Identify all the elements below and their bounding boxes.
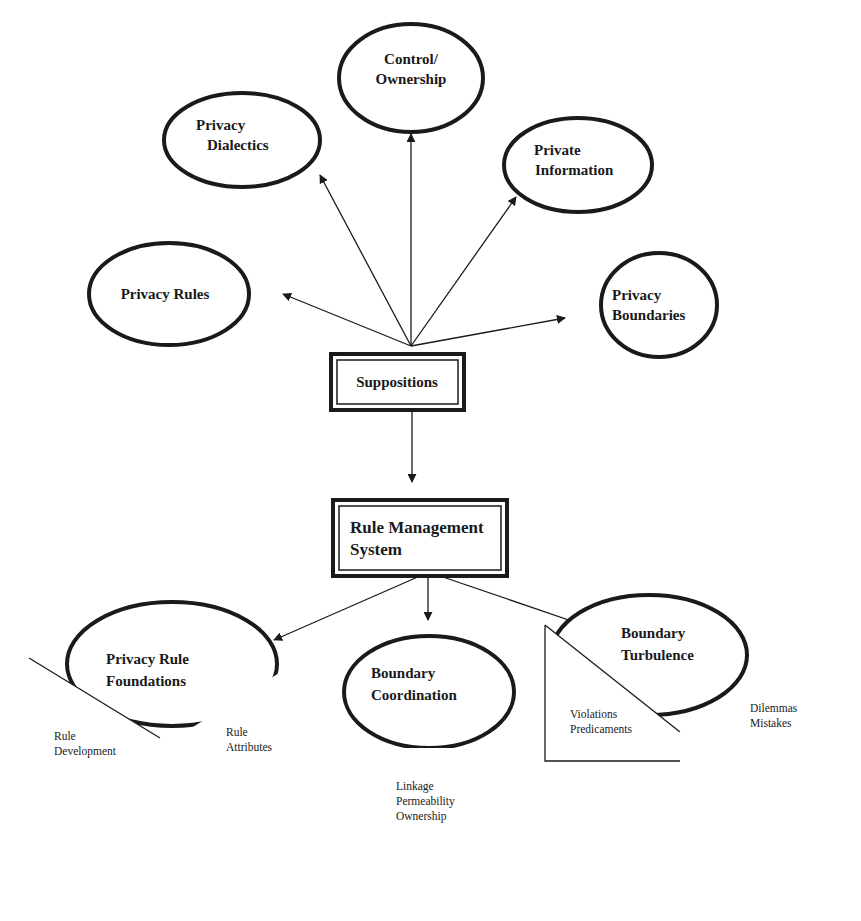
label-attributes: Attributes (226, 741, 273, 753)
label-rule: Rule (54, 730, 76, 742)
node-privacy-rule-foundations: Privacy Rule Foundations Rule Developmen… (29, 602, 313, 781)
label-dialectics: Dialectics (207, 137, 269, 153)
label-privacy-rules: Privacy Rules (121, 286, 210, 302)
label-rule-management: Rule Management (350, 518, 484, 537)
node-privacy-boundaries: Privacy Boundaries (601, 253, 717, 357)
label-information: Information (535, 162, 614, 178)
node-private-information: Private Information (504, 118, 652, 212)
arrow-to-privacy-rules (283, 294, 411, 346)
node-boundary-turbulence: Boundary Turbulence Violations Predicame… (545, 595, 833, 761)
label-linkage: Linkage (396, 780, 434, 793)
label-private: Private (534, 142, 581, 158)
label-boundaries: Boundaries (612, 307, 686, 323)
label-predicaments: Predicaments (570, 723, 632, 735)
label-foundations: Foundations (106, 673, 186, 689)
node-privacy-rules: Privacy Rules (89, 243, 249, 345)
label-dilemmas: Dilemmas (750, 702, 798, 714)
label-permeability: Permeability (396, 795, 455, 808)
node-control-ownership: Control/ Ownership (339, 24, 483, 132)
label-turbulence: Turbulence (621, 647, 694, 663)
label-boundary: Boundary (371, 665, 436, 681)
arrow-to-privacy-dialectics (320, 175, 411, 346)
node-suppositions: Suppositions (331, 354, 464, 410)
label-system: System (350, 540, 402, 559)
arrow-to-privacy-rule-foundations (274, 576, 420, 640)
node-privacy-dialectics: Privacy Dialectics (164, 93, 320, 187)
privacy-management-diagram: Control/ Ownership Privacy Dialectics Pr… (0, 0, 861, 921)
label-boundary: Boundary (621, 625, 686, 641)
label-privacy-rule: Privacy Rule (106, 651, 189, 667)
label-ownership: Ownership (376, 71, 447, 87)
label-control: Control/ (384, 51, 439, 67)
label-privacy: Privacy (196, 117, 246, 133)
label-violations: Violations (570, 708, 618, 720)
arrow-to-private-information (411, 197, 516, 346)
node-rule-management-system: Rule Management System (333, 500, 507, 576)
label-coordination: Coordination (371, 687, 458, 703)
node-boundary-coordination: Boundary Coordination Linkage Permeabili… (344, 636, 514, 895)
label-mistakes: Mistakes (750, 717, 792, 729)
arrow-to-privacy-boundaries (411, 318, 565, 346)
label-privacy: Privacy (612, 287, 662, 303)
label-ownership: Ownership (396, 810, 447, 823)
label-rule: Rule (226, 726, 248, 738)
label-development: Development (54, 745, 117, 758)
label-suppositions: Suppositions (356, 374, 438, 390)
